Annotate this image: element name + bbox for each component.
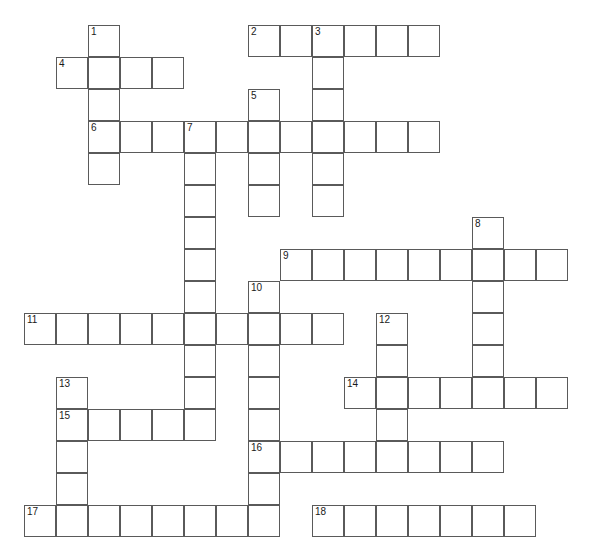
crossword-cell[interactable] (216, 121, 248, 153)
crossword-cell[interactable] (56, 441, 88, 473)
crossword-cell[interactable] (184, 281, 216, 313)
crossword-cell[interactable] (312, 313, 344, 345)
crossword-cell[interactable] (248, 121, 280, 153)
crossword-cell[interactable] (184, 505, 216, 537)
crossword-cell[interactable] (344, 25, 376, 57)
crossword-cell[interactable] (376, 409, 408, 441)
crossword-cell[interactable]: 11 (24, 313, 56, 345)
crossword-cell[interactable]: 1 (88, 25, 120, 57)
crossword-cell[interactable] (408, 121, 440, 153)
crossword-cell[interactable] (440, 377, 472, 409)
crossword-cell[interactable] (216, 505, 248, 537)
crossword-cell[interactable] (344, 505, 376, 537)
crossword-cell[interactable]: 14 (344, 377, 376, 409)
crossword-cell[interactable] (152, 505, 184, 537)
crossword-cell[interactable] (184, 377, 216, 409)
crossword-cell[interactable] (248, 345, 280, 377)
crossword-cell[interactable]: 7 (184, 121, 216, 153)
crossword-cell[interactable] (344, 121, 376, 153)
crossword-cell[interactable] (472, 441, 504, 473)
crossword-cell[interactable] (472, 281, 504, 313)
crossword-cell[interactable] (472, 345, 504, 377)
crossword-cell[interactable]: 13 (56, 377, 88, 409)
crossword-cell[interactable] (440, 249, 472, 281)
crossword-cell[interactable] (376, 249, 408, 281)
crossword-cell[interactable] (376, 505, 408, 537)
crossword-cell[interactable] (120, 121, 152, 153)
crossword-cell[interactable] (248, 313, 280, 345)
crossword-cell[interactable] (88, 89, 120, 121)
crossword-cell[interactable] (312, 185, 344, 217)
crossword-cell[interactable]: 3 (312, 25, 344, 57)
crossword-cell[interactable] (280, 441, 312, 473)
crossword-cell[interactable]: 16 (248, 441, 280, 473)
crossword-cell[interactable]: 10 (248, 281, 280, 313)
crossword-cell[interactable] (120, 57, 152, 89)
crossword-cell[interactable] (216, 313, 248, 345)
crossword-cell[interactable] (472, 249, 504, 281)
crossword-cell[interactable]: 6 (88, 121, 120, 153)
crossword-cell[interactable] (376, 121, 408, 153)
crossword-cell[interactable] (184, 249, 216, 281)
crossword-cell[interactable] (472, 313, 504, 345)
crossword-cell[interactable] (152, 313, 184, 345)
crossword-cell[interactable] (248, 409, 280, 441)
crossword-cell[interactable] (56, 313, 88, 345)
crossword-cell[interactable] (152, 57, 184, 89)
crossword-cell[interactable]: 12 (376, 313, 408, 345)
crossword-cell[interactable] (280, 121, 312, 153)
crossword-cell[interactable] (120, 505, 152, 537)
crossword-cell[interactable] (504, 249, 536, 281)
crossword-cell[interactable] (88, 57, 120, 89)
crossword-cell[interactable] (408, 249, 440, 281)
crossword-cell[interactable] (312, 441, 344, 473)
crossword-cell[interactable] (312, 89, 344, 121)
crossword-cell[interactable] (376, 441, 408, 473)
crossword-cell[interactable]: 18 (312, 505, 344, 537)
crossword-cell[interactable] (184, 345, 216, 377)
crossword-cell[interactable] (152, 409, 184, 441)
crossword-cell[interactable]: 5 (248, 89, 280, 121)
crossword-cell[interactable] (536, 249, 568, 281)
crossword-cell[interactable] (248, 505, 280, 537)
crossword-cell[interactable] (120, 409, 152, 441)
crossword-cell[interactable] (184, 313, 216, 345)
crossword-cell[interactable] (184, 409, 216, 441)
crossword-cell[interactable] (280, 25, 312, 57)
crossword-cell[interactable] (184, 153, 216, 185)
crossword-cell[interactable] (184, 217, 216, 249)
crossword-cell[interactable]: 15 (56, 409, 88, 441)
crossword-cell[interactable]: 9 (280, 249, 312, 281)
crossword-cell[interactable] (88, 153, 120, 185)
crossword-cell[interactable] (312, 249, 344, 281)
crossword-cell[interactable] (248, 153, 280, 185)
crossword-cell[interactable] (440, 441, 472, 473)
crossword-cell[interactable] (376, 377, 408, 409)
crossword-cell[interactable] (504, 377, 536, 409)
crossword-cell[interactable] (88, 505, 120, 537)
crossword-cell[interactable] (408, 25, 440, 57)
crossword-cell[interactable] (408, 377, 440, 409)
crossword-cell[interactable]: 8 (472, 217, 504, 249)
crossword-cell[interactable] (88, 409, 120, 441)
crossword-cell[interactable] (344, 249, 376, 281)
crossword-cell[interactable] (376, 345, 408, 377)
crossword-cell[interactable] (312, 121, 344, 153)
crossword-cell[interactable] (184, 185, 216, 217)
crossword-cell[interactable]: 4 (56, 57, 88, 89)
crossword-cell[interactable] (472, 505, 504, 537)
crossword-cell[interactable] (120, 313, 152, 345)
crossword-cell[interactable] (312, 57, 344, 89)
crossword-cell[interactable] (408, 505, 440, 537)
crossword-cell[interactable] (248, 185, 280, 217)
crossword-cell[interactable] (152, 121, 184, 153)
crossword-cell[interactable] (408, 441, 440, 473)
crossword-cell[interactable] (504, 505, 536, 537)
crossword-cell[interactable]: 2 (248, 25, 280, 57)
crossword-cell[interactable] (344, 441, 376, 473)
crossword-cell[interactable] (248, 473, 280, 505)
crossword-cell[interactable] (472, 377, 504, 409)
crossword-cell[interactable] (56, 473, 88, 505)
crossword-cell[interactable] (536, 377, 568, 409)
crossword-cell[interactable] (376, 25, 408, 57)
